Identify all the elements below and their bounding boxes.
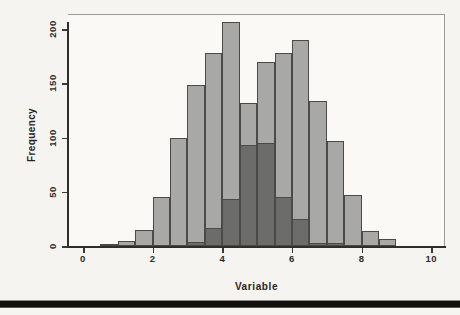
histogram-bar xyxy=(344,195,361,246)
x-tick-label: 6 xyxy=(280,253,304,264)
y-tick-label: 100 xyxy=(47,129,58,146)
y-tick-mark xyxy=(62,29,67,31)
histogram-bar-overlap xyxy=(222,199,239,246)
histogram-bar xyxy=(187,85,204,246)
histogram-bar xyxy=(292,40,309,246)
x-tick-label: 2 xyxy=(141,253,165,264)
x-tick-label: 4 xyxy=(210,253,234,264)
y-tick-mark xyxy=(62,192,67,194)
page-bottom-rule xyxy=(0,300,460,307)
histogram-figure: 0246810050100150200 Variable Frequency xyxy=(0,0,460,315)
y-tick-label: 150 xyxy=(47,75,58,92)
histogram-bar xyxy=(170,138,187,247)
histogram-bar xyxy=(153,197,170,246)
histogram-bar xyxy=(205,53,222,246)
y-tick-label: 0 xyxy=(47,243,58,249)
y-tick-label: 50 xyxy=(47,186,58,198)
histogram-bar-overlap xyxy=(275,197,292,246)
x-tick-label: 8 xyxy=(350,253,374,264)
histogram-bar xyxy=(309,101,326,246)
y-axis-line xyxy=(67,22,69,248)
histogram-bar xyxy=(379,239,396,246)
histogram-bar-overlap xyxy=(257,143,274,246)
x-tick-label: 0 xyxy=(71,253,95,264)
histogram-bar xyxy=(362,231,379,246)
x-axis-line xyxy=(67,246,446,248)
y-tick-label: 200 xyxy=(47,20,58,37)
histogram-bar-overlap xyxy=(240,145,257,246)
x-tick-label: 10 xyxy=(419,253,443,264)
histogram-bar xyxy=(327,141,344,246)
histogram-bar xyxy=(135,230,152,246)
y-tick-mark xyxy=(62,246,67,248)
y-axis-title: Frequency xyxy=(26,108,37,162)
histogram-bar-overlap xyxy=(205,228,222,246)
y-tick-mark xyxy=(62,138,67,140)
y-tick-mark xyxy=(62,83,67,85)
x-axis-title: Variable xyxy=(68,281,445,292)
histogram-bar-overlap xyxy=(292,219,309,246)
